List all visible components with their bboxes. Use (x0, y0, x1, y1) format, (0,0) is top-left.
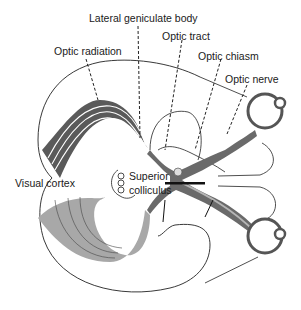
label-optic-chiasm: Optic chiasm (198, 50, 259, 62)
label-optic-nerve: Optic nerve (225, 73, 279, 85)
label-superior: Superior (129, 170, 169, 182)
optic-radiation-upper (42, 100, 150, 178)
colliculus-nuclei (118, 173, 124, 193)
lesion-mark-1 (163, 200, 165, 222)
label-colliculus: colliculus (129, 184, 172, 196)
label-optic-radiation: Optic radiation (54, 45, 122, 57)
chiasm-nuclei (174, 168, 182, 176)
eye-bottom (248, 219, 285, 253)
label-visual-cortex: Visual cortex (15, 177, 75, 189)
visual-pathway-diagram (0, 0, 301, 310)
optic-radiation-lower (38, 197, 150, 262)
inner-curve-top (150, 111, 201, 160)
eye-top (248, 94, 285, 128)
label-optic-tract: Optic tract (162, 30, 210, 42)
label-lateral-geniculate-body: Lateral geniculate body (89, 12, 198, 24)
